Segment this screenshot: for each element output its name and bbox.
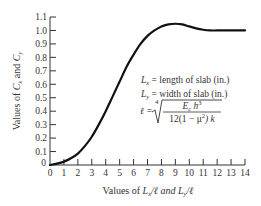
svg-text:Ec h3: Ec h3 [181,99,201,112]
x-tick-label: 12 [212,168,222,178]
y-tick-label: 1.1 [35,12,47,22]
x-tick-label: 7 [145,168,150,178]
x-tick-label: 14 [240,168,250,178]
x-tick-label: 9 [173,168,178,178]
y-tick-label: 0 [41,158,46,168]
y-tick-label: 0.2 [35,133,47,143]
annotation-width: Ly = width of slab (in.) [140,89,227,100]
y-tick-label: 0.3 [35,120,47,130]
x-axis-title: Values of Lx/ℓ and Ly/ℓ [103,185,194,197]
y-tick-label: 0.6 [35,80,47,90]
annotation-length: Lx = length of slab (in.) [140,75,229,86]
y-tick-label: 1.0 [35,26,47,36]
x-tick-label: 10 [185,168,195,178]
y-tick-label: 0.1 [35,147,47,157]
svg-text:12(1 − μ2) k: 12(1 − μ2) k [169,112,215,125]
y-tick-label: 0.7 [35,66,47,76]
chart: 00.10.20.30.40.50.60.70.80.91.01.1 01234… [0,0,261,206]
x-tick-label: 13 [226,168,236,178]
y-tick-label: 0.5 [35,93,47,103]
y-axis-ticks: 00.10.20.30.40.50.60.70.80.91.01.1 [35,12,56,168]
x-tick-label: 1 [62,168,67,178]
x-tick-label: 5 [117,168,122,178]
svg-text:ℓ =: ℓ = [140,106,153,116]
y-axis-title: Values of Cx and Cy [11,52,23,131]
y-tick-label: 0.8 [35,53,47,63]
y-tick-label: 0.9 [35,39,47,49]
x-tick-label: 3 [89,168,94,178]
x-tick-label: 2 [75,168,80,178]
x-tick-label: 0 [48,168,53,178]
y-tick-label: 0.4 [35,106,47,116]
x-tick-label: 11 [199,168,208,178]
x-axis-ticks: 01234567891011121314 [48,159,250,178]
x-tick-label: 8 [159,168,164,178]
formula-radius-of-relative-stiffness: ℓ = 4 Ec h3 12(1 − μ2) k [140,98,222,125]
svg-text:4: 4 [155,98,159,106]
x-tick-label: 6 [131,168,136,178]
x-tick-label: 4 [103,168,108,178]
